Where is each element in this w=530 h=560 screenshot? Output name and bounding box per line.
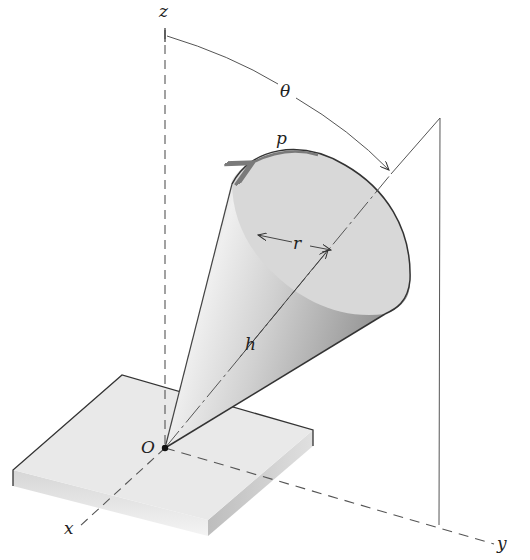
- radius-label: r: [293, 235, 301, 252]
- y-axis-label: y: [497, 535, 507, 552]
- spin-rate-label: p: [276, 130, 287, 147]
- theta-label: θ: [280, 83, 290, 100]
- base-plate: [13, 375, 313, 536]
- theta-arc: [167, 36, 278, 84]
- origin-point: [162, 445, 168, 451]
- cone-axis-extension: [391, 118, 440, 174]
- cone-diagram: z θ p r h O x y: [0, 0, 530, 560]
- origin-label: O: [141, 439, 155, 456]
- projection-line: [439, 118, 440, 525]
- x-axis-label: x: [64, 520, 74, 537]
- height-label: h: [245, 336, 256, 353]
- z-axis-label: z: [159, 3, 168, 20]
